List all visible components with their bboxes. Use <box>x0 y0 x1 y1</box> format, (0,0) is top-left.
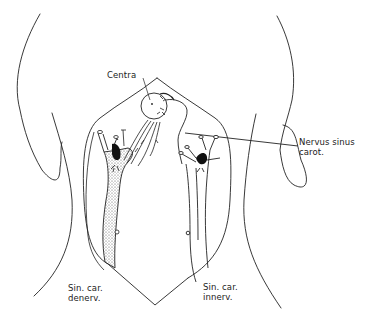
head-outline-right <box>277 16 306 187</box>
label-sin-car-innerv: Sin. car. innerv. <box>203 282 238 302</box>
label-nervus-line2: carot. <box>299 147 355 157</box>
label-nervus-line1: Nervus sinus <box>299 137 355 147</box>
label-nervus-sinus-carot: Nervus sinus carot. <box>299 137 355 157</box>
incision-outline <box>83 78 188 305</box>
carotid-sinus-diagram <box>0 0 369 315</box>
label-denerv-line1: Sin. car. <box>68 283 103 293</box>
right-carotid-artery <box>179 135 220 282</box>
nervus-sinus-carot <box>166 99 298 164</box>
centra-circle <box>141 78 174 119</box>
label-denerv-line2: denerv. <box>68 293 103 303</box>
label-innerv-line1: Sin. car. <box>203 282 238 292</box>
incision-outline-right <box>157 78 231 278</box>
head-outline-left <box>17 14 62 180</box>
label-sin-car-denerv: Sin. car. denerv. <box>68 283 103 303</box>
neck-outline-left <box>34 113 72 296</box>
neck-inner-left <box>86 132 104 270</box>
left-carotid-artery <box>98 130 133 268</box>
label-innerv-line2: innerv. <box>203 292 238 302</box>
label-centra-text: Centra <box>107 70 136 80</box>
label-centra: Centra <box>107 70 136 80</box>
